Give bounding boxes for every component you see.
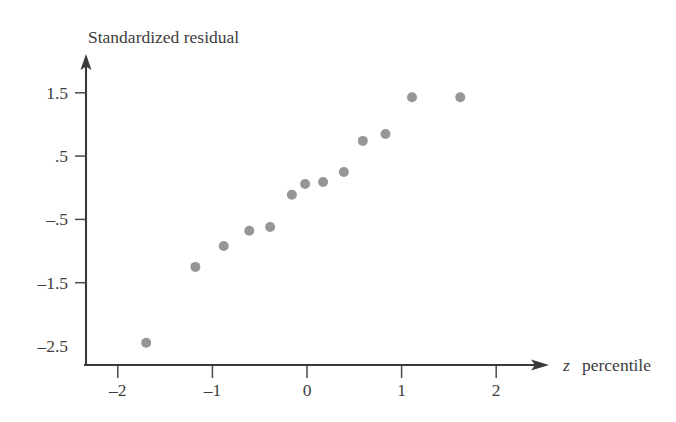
- x-tick-label: –2: [108, 380, 127, 400]
- data-point: [287, 190, 297, 200]
- y-tick-label: 1.5: [46, 83, 68, 103]
- data-point: [244, 226, 254, 236]
- data-point: [300, 179, 310, 189]
- data-point: [265, 222, 275, 232]
- x-axis-title: percentile: [582, 355, 651, 375]
- data-point: [407, 92, 417, 102]
- chart-canvas: Standardized residual –2–10121.5.5–.5–1.…: [0, 0, 676, 422]
- data-point: [219, 241, 229, 251]
- data-point: [455, 92, 465, 102]
- data-points-group: [141, 92, 465, 348]
- tick-marks-group: [75, 93, 496, 378]
- x-axis-title-variable: z: [562, 355, 570, 375]
- data-point: [339, 167, 349, 177]
- data-point: [318, 177, 328, 187]
- y-tick-label: –1.5: [36, 273, 68, 293]
- data-point: [190, 262, 200, 272]
- y-tick-label: .5: [55, 146, 68, 166]
- tick-labels-group: –2–10121.5.5–.5–1.5–2.5: [36, 83, 500, 400]
- x-tick-label: 1: [397, 380, 406, 400]
- x-tick-label: 0: [303, 380, 312, 400]
- y-axis-title: Standardized residual: [88, 27, 239, 47]
- y-tick-label: –.5: [45, 209, 68, 229]
- data-point: [358, 136, 368, 146]
- normal-probability-plot-figure: Standardized residual –2–10121.5.5–.5–1.…: [0, 0, 676, 422]
- x-tick-label: –1: [203, 380, 222, 400]
- data-point: [141, 338, 151, 348]
- x-tick-label: 2: [492, 380, 501, 400]
- axes-group: [81, 54, 550, 371]
- y-tick-label: –2.5: [36, 336, 68, 356]
- data-point: [381, 129, 391, 139]
